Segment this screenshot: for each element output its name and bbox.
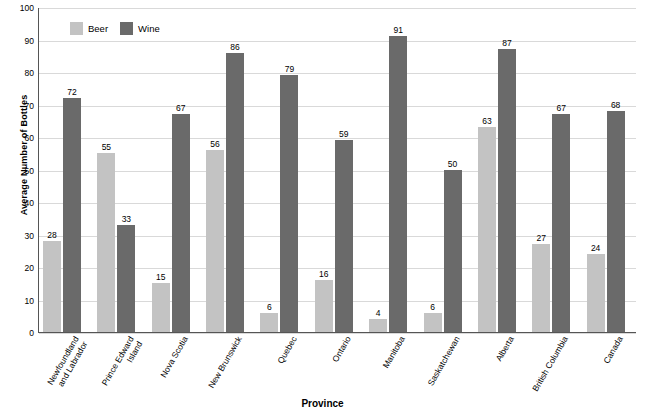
bar-value-label: 15 — [156, 272, 165, 282]
bar-wine: 67 — [552, 114, 570, 332]
y-tick-label: 40 — [0, 198, 34, 208]
y-tick-label: 10 — [0, 296, 34, 306]
y-axis-tick-labels: 0102030405060708090100 — [0, 8, 34, 333]
bar-beer: 56 — [206, 150, 224, 332]
y-tick-label: 90 — [0, 36, 34, 46]
bar-value-label: 4 — [376, 308, 381, 318]
legend-item: Beer — [70, 22, 108, 35]
plot-area: 2872553315675686679165949165063872767246… — [38, 8, 636, 333]
y-tick-label: 20 — [0, 263, 34, 273]
x-axis-tick-labels: Newfoundlandand LabradorPrince EdwardIsl… — [38, 335, 636, 397]
bar-group: 2468 — [583, 8, 637, 332]
bar-value-label: 55 — [102, 142, 111, 152]
bar-beer: 28 — [43, 241, 61, 332]
legend-swatch — [70, 22, 83, 35]
bar-group: 5686 — [202, 8, 256, 332]
bar-beer: 16 — [315, 280, 333, 332]
bar-value-label: 67 — [557, 103, 566, 113]
bar-beer: 27 — [532, 244, 550, 332]
bar-wine: 72 — [63, 98, 81, 332]
bar-value-label: 6 — [430, 302, 435, 312]
bar-beer: 4 — [369, 319, 387, 332]
legend-label: Beer — [88, 23, 108, 34]
legend-swatch — [120, 22, 133, 35]
bar-group: 491 — [365, 8, 419, 332]
y-tick-label: 80 — [0, 68, 34, 78]
x-axis-title: Province — [0, 398, 645, 409]
bar-group: 2767 — [528, 8, 582, 332]
bar-beer: 63 — [478, 127, 496, 332]
bar-value-label: 63 — [482, 116, 491, 126]
bar-beer: 55 — [97, 153, 115, 332]
bar-value-label: 16 — [319, 269, 328, 279]
bar-wine: 59 — [335, 140, 353, 332]
y-tick-label: 60 — [0, 133, 34, 143]
bar-group: 5533 — [93, 8, 147, 332]
bar-wine: 91 — [389, 36, 407, 332]
y-tick-label: 30 — [0, 231, 34, 241]
y-tick-label: 0 — [0, 328, 34, 338]
bar-beer: 15 — [152, 283, 170, 332]
bar-group: 6387 — [474, 8, 528, 332]
bar-group: 1659 — [311, 8, 365, 332]
bar-group: 650 — [420, 8, 474, 332]
bar-beer: 6 — [424, 313, 442, 333]
bar-value-label: 59 — [339, 129, 348, 139]
legend-label: Wine — [138, 23, 160, 34]
bar-value-label: 6 — [267, 302, 272, 312]
bar-group: 679 — [256, 8, 310, 332]
bar-value-label: 67 — [176, 103, 185, 113]
bar-value-label: 50 — [448, 159, 457, 169]
bar-value-label: 27 — [537, 233, 546, 243]
bar-wine: 68 — [607, 111, 625, 332]
bar-wine: 67 — [172, 114, 190, 332]
bar-wine: 50 — [444, 170, 462, 333]
y-tick-label: 50 — [0, 166, 34, 176]
bar-wine: 87 — [498, 49, 516, 332]
gridline — [39, 333, 636, 334]
bar-value-label: 68 — [611, 100, 620, 110]
bar-wine: 86 — [226, 53, 244, 333]
bar-wine: 33 — [117, 225, 135, 332]
bar-value-label: 33 — [122, 214, 131, 224]
chart-legend: BeerWine — [70, 22, 160, 35]
y-tick-label: 70 — [0, 101, 34, 111]
legend-item: Wine — [120, 22, 160, 35]
bar-chart: Average Number of Bottles 01020304050607… — [0, 0, 645, 416]
y-tick-label: 100 — [0, 3, 34, 13]
bar-group: 1567 — [148, 8, 202, 332]
bar-value-label: 28 — [47, 230, 56, 240]
bar-value-label: 72 — [67, 87, 76, 97]
bar-value-label: 87 — [502, 38, 511, 48]
bar-wine: 79 — [280, 75, 298, 332]
bar-beer: 24 — [587, 254, 605, 332]
bar-value-label: 79 — [285, 64, 294, 74]
bar-value-label: 24 — [591, 243, 600, 253]
bar-beer: 6 — [260, 313, 278, 333]
bars-layer: 2872553315675686679165949165063872767246… — [39, 8, 636, 332]
bar-value-label: 91 — [393, 25, 402, 35]
bar-value-label: 56 — [210, 139, 219, 149]
bar-value-label: 86 — [230, 42, 239, 52]
bar-group: 2872 — [39, 8, 93, 332]
